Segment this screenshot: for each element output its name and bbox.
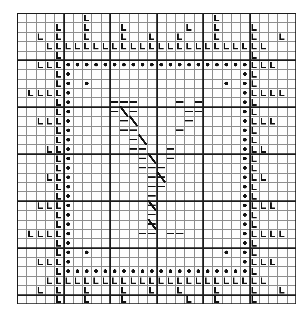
stitch-grid-canvas	[17, 13, 296, 304]
pattern-chart-page: Cross-stitch pattern chart	[0, 0, 307, 322]
stitch-grid	[17, 13, 296, 304]
